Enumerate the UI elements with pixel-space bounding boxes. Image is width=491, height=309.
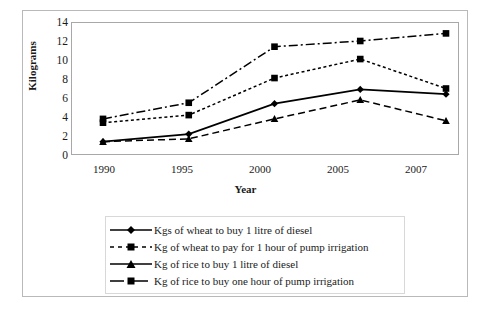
y-tick-0: 0 [46, 150, 68, 162]
data-point [356, 96, 364, 103]
x-tick-1995: 1995 [152, 163, 212, 175]
legend-key-triangle-solid-icon [108, 257, 154, 271]
legend-label: Kg of rice to buy one hour of pump irrig… [154, 275, 354, 287]
data-point [185, 99, 192, 106]
legend-item-rice-diesel[interactable]: Kg of rice to buy 1 litre of diesel [108, 255, 402, 272]
y-tick-6: 6 [46, 93, 68, 105]
y-axis-label: Kilograms [26, 26, 38, 106]
legend-label: Kgs of wheat to buy 1 litre of diesel [154, 224, 312, 236]
x-tick-2000: 2000 [230, 163, 290, 175]
legend-item-rice-irrigation[interactable]: Kg of rice to buy one hour of pump irrig… [108, 272, 402, 289]
data-point [271, 43, 278, 50]
y-tick-14: 14 [46, 17, 68, 29]
data-point [100, 116, 107, 123]
x-axis-label: Year [0, 183, 491, 195]
legend-key-diamond-solid-icon [108, 223, 154, 237]
legend-key-square-dashdot-icon [108, 274, 154, 288]
data-point [357, 86, 364, 93]
data-point [357, 38, 364, 45]
data-point [185, 112, 192, 119]
y-axis-ticks: 14 12 10 8 6 4 2 0 [40, 0, 68, 309]
y-tick-2: 2 [46, 131, 68, 143]
data-point [271, 100, 278, 107]
y-tick-8: 8 [46, 74, 68, 86]
chart-figure: 14 12 10 8 6 4 2 0 Kilograms 1990 1995 2… [0, 0, 491, 309]
y-tick-4: 4 [46, 112, 68, 124]
data-point [443, 85, 450, 92]
x-tick-1990: 1990 [74, 163, 134, 175]
legend-item-wheat-irrigation[interactable]: Kg of wheat to pay for 1 hour of pump ir… [108, 238, 402, 255]
y-tick-12: 12 [46, 36, 68, 48]
legend-label: Kg of wheat to pay for 1 hour of pump ir… [154, 241, 368, 253]
plot-canvas [71, 22, 459, 155]
legend-item-wheat-diesel[interactable]: Kgs of wheat to buy 1 litre of diesel [108, 221, 402, 238]
data-point [443, 30, 450, 37]
y-tick-10: 10 [46, 55, 68, 67]
x-tick-2007: 2007 [386, 163, 446, 175]
data-point [271, 75, 278, 82]
x-tick-2005: 2005 [308, 163, 368, 175]
chart-legend: Kgs of wheat to buy 1 litre of diesel Kg… [105, 216, 405, 294]
legend-label: Kg of rice to buy 1 litre of diesel [154, 258, 298, 270]
legend-key-square-dotted-icon [108, 240, 154, 254]
data-point [357, 56, 364, 63]
